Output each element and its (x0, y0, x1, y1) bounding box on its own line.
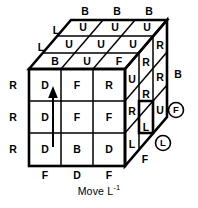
top-sticker-r1c2: U (111, 21, 119, 33)
right-sticker-r3c1: L (129, 138, 136, 150)
edge-label-lower-right: F (142, 153, 149, 165)
edge-label-top-1: B (81, 5, 89, 17)
edge-label-left-3: R (9, 143, 17, 155)
front-sticker-r3c2: B (73, 143, 81, 155)
circled-front-label: F (169, 103, 184, 118)
right-sticker-r2c1: R (128, 105, 136, 117)
top-sticker-r2c1: U (65, 38, 73, 50)
circled-left-label: L (156, 136, 171, 151)
rotation-arrow (48, 86, 58, 147)
top-sticker-r3c1: B (51, 55, 59, 67)
front-face: D F R D F F D B D (29, 69, 125, 166)
edge-label-topleft-1: L (53, 24, 60, 36)
circled-front-text: F (173, 104, 179, 115)
cube-diagram-container: U U U U U U B U F U R R R (0, 0, 198, 208)
front-sticker-r1c1: D (41, 79, 49, 91)
edge-label-left-2: R (9, 111, 17, 123)
edge-label-left-1: R (9, 79, 17, 91)
right-sticker-r1c1: U (128, 73, 136, 85)
edge-label-top-2: B (113, 5, 121, 17)
caption: Move L-1 (0, 183, 198, 197)
front-sticker-r2c3: F (106, 111, 113, 123)
edge-label-bottom-2: D (73, 169, 81, 181)
right-sticker-r1c3: R (156, 39, 164, 51)
edge-label-bottom-1: F (42, 169, 49, 181)
rotation-arrow-head (48, 86, 58, 98)
edge-label-bottom-3: F (106, 169, 113, 181)
edge-label-right-1: B (174, 68, 182, 80)
top-sticker-r1c1: U (79, 21, 87, 33)
right-sticker-r2c3: R (156, 71, 164, 83)
front-sticker-r2c1: D (41, 111, 49, 123)
top-sticker-r2c3: U (129, 38, 137, 50)
front-sticker-r3c3: D (105, 143, 113, 155)
edge-label-top-3: B (145, 5, 153, 17)
right-sticker-r3c2: L (143, 121, 150, 133)
circled-left-text: L (160, 137, 166, 148)
front-sticker-r3c1: D (41, 143, 49, 155)
front-sticker-r1c2: F (74, 79, 81, 91)
edge-label-topleft-2: L (38, 41, 45, 53)
front-sticker-r2c2: F (74, 111, 81, 123)
top-sticker-r2c2: U (97, 38, 105, 50)
caption-prefix: Move L (78, 185, 114, 197)
top-sticker-r3c2: U (83, 55, 91, 67)
front-sticker-r1c3: R (105, 79, 113, 91)
right-sticker-r2c2: R (142, 88, 150, 100)
caption-exponent: -1 (113, 183, 120, 192)
rubiks-cube-illustration: U U U U U U B U F U R R R (0, 0, 198, 208)
right-sticker-r3c3: U (156, 104, 164, 116)
top-sticker-r1c3: U (143, 21, 151, 33)
right-sticker-r1c2: R (142, 56, 150, 68)
top-sticker-r3c3: F (116, 55, 123, 67)
